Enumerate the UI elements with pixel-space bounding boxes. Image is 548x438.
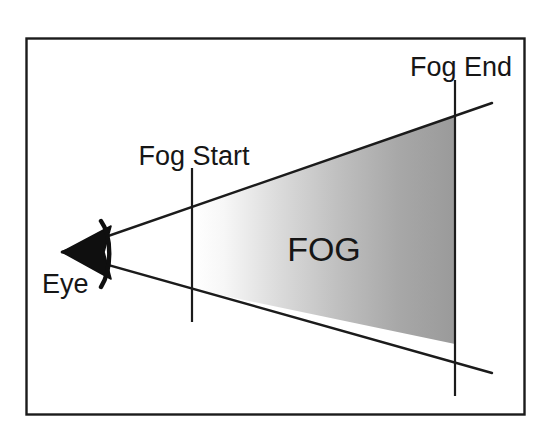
fog-diagram-figure: Fog Start Fog End FOG Eye <box>0 0 548 438</box>
fog-end-label: Fog End <box>410 52 512 82</box>
eye-label: Eye <box>42 269 89 299</box>
fog-region-label: FOG <box>287 230 361 268</box>
fog-start-label: Fog Start <box>138 141 250 171</box>
fog-diagram-canvas: Fog Start Fog End FOG Eye <box>0 0 548 438</box>
